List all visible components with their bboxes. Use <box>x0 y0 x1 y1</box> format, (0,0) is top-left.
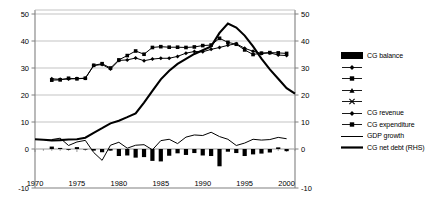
bar-cg-balance <box>234 149 238 153</box>
marker-square <box>100 62 104 66</box>
bar-cg-balance <box>276 147 280 149</box>
legend-item-label: CG revenue <box>367 109 404 117</box>
marker-square <box>92 64 96 68</box>
bar-cg-balance <box>58 148 62 149</box>
marker-square <box>251 53 255 57</box>
marker-square <box>176 45 180 49</box>
bar-cg-balance <box>66 149 70 150</box>
marker-diamond <box>176 54 180 58</box>
legend-marker-triangle-icon <box>340 85 364 96</box>
bar-cg-balance <box>209 149 213 156</box>
marker-diamond <box>184 51 188 55</box>
bar-cg-balance <box>184 149 188 155</box>
marker-square <box>218 37 222 41</box>
marker-square <box>209 43 213 47</box>
marker-square <box>159 45 163 49</box>
bar-cg-balance <box>243 149 247 156</box>
marker-square <box>125 54 129 58</box>
y-tick-label-left: 10 <box>21 118 29 127</box>
bar-cg-balance <box>100 149 104 152</box>
bar-cg-balance <box>251 149 255 154</box>
legend-marker-bar-icon <box>340 50 364 61</box>
bar-cg-balance <box>175 149 179 153</box>
bar-cg-balance <box>117 149 121 156</box>
legend-item[interactable]: CG balance <box>340 50 431 62</box>
bar-cg-balance <box>226 149 230 152</box>
bar-cg-balance <box>50 147 54 149</box>
legend-marker-line-thin-icon <box>340 131 364 142</box>
legend-item-label: CG balance <box>367 52 403 60</box>
y-tick-label-right: 10 <box>301 118 309 127</box>
y-tick-label-right: 20 <box>301 91 309 100</box>
marker-square <box>184 46 188 50</box>
legend-item[interactable]: CG expenditure <box>340 119 431 131</box>
legend-marker-line-thick-icon <box>340 142 364 153</box>
marker-diamond <box>142 59 146 63</box>
marker-diamond <box>159 56 163 60</box>
marker-square <box>201 44 205 48</box>
legend-item[interactable] <box>340 62 431 74</box>
marker-square <box>67 76 71 80</box>
marker-square <box>276 51 280 55</box>
chart-figure: -10-100010102020303040405050197019751980… <box>0 0 431 199</box>
bar-cg-balance <box>159 149 163 161</box>
marker-square <box>260 51 264 55</box>
marker-square <box>234 42 238 46</box>
y-tick-label-right: -10 <box>301 184 312 193</box>
y-tick-label-right: 0 <box>301 145 305 154</box>
marker-square <box>268 51 272 55</box>
x-tick-label: 1985 <box>152 179 169 188</box>
marker-diamond <box>134 56 138 60</box>
legend-item[interactable] <box>340 96 431 108</box>
y-tick-label-right: 40 <box>301 37 309 46</box>
bar-cg-balance <box>192 149 196 153</box>
legend-item-label: CG expenditure <box>367 121 415 129</box>
legend-item[interactable]: CG revenue <box>340 108 431 120</box>
legend-item-label: CG net debt (RHS) <box>367 144 424 152</box>
marker-diamond <box>150 57 154 61</box>
bar-cg-balance <box>167 149 171 156</box>
legend-item[interactable] <box>340 85 431 97</box>
marker-square <box>117 58 121 62</box>
bar-cg-balance <box>75 147 79 149</box>
chart-legend: CG balanceCG revenueCG expenditureGDP gr… <box>340 50 431 154</box>
marker-square <box>58 78 62 82</box>
marker-square <box>226 41 230 45</box>
marker-diamond <box>218 45 222 49</box>
bar-cg-balance <box>134 149 138 158</box>
x-tick-label: 1995 <box>236 179 253 188</box>
x-tick-label: 1990 <box>194 179 211 188</box>
marker-diamond <box>125 58 129 62</box>
y-tick-label-left: 30 <box>21 64 29 73</box>
legend-item[interactable] <box>340 73 431 85</box>
x-tick-label: 1970 <box>27 179 44 188</box>
y-tick-label-left: 40 <box>21 37 29 46</box>
bar-cg-balance <box>83 149 87 150</box>
legend-item[interactable]: CG net debt (RHS) <box>340 142 431 154</box>
y-tick-label-left: 0 <box>25 145 29 154</box>
legend-marker-square-icon <box>340 73 364 84</box>
bar-cg-balance <box>125 149 129 155</box>
marker-square <box>134 49 138 53</box>
bar-cg-balance <box>142 149 146 157</box>
y-tick-label-right: 50 <box>301 10 309 19</box>
legend-marker-cross-icon <box>340 96 364 107</box>
legend-marker-square-line-icon <box>340 119 364 130</box>
marker-square <box>193 45 197 49</box>
y-tick-label-right: 30 <box>301 64 309 73</box>
x-tick-label: 1980 <box>111 179 128 188</box>
bar-cg-balance <box>201 149 205 155</box>
x-tick-label: 2000 <box>278 179 295 188</box>
marker-square <box>84 76 88 80</box>
marker-diamond <box>167 56 171 60</box>
marker-square <box>285 52 289 56</box>
bar-cg-balance <box>259 149 263 154</box>
legend-marker-diamond-icon <box>340 62 364 73</box>
y-tick-label-left: 20 <box>21 91 29 100</box>
bar-cg-balance <box>150 149 154 161</box>
line-cg-revenue <box>52 44 287 80</box>
legend-marker-diamond-line-icon <box>340 108 364 119</box>
bar-cg-balance <box>268 149 272 153</box>
legend-item[interactable]: GDP growth <box>340 131 431 143</box>
y-tick-label-left: 50 <box>21 10 29 19</box>
